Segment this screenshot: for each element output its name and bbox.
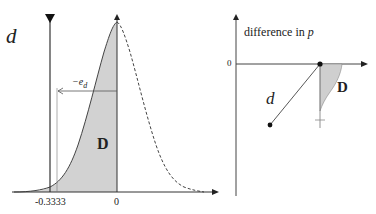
right-d-segment — [270, 64, 320, 125]
left-d-label: d — [6, 26, 17, 47]
right-region-d-label: D — [337, 80, 348, 95]
right-d-endpoint-dot — [268, 123, 273, 128]
d-marker-triangle-icon — [45, 14, 55, 23]
shaded-region-d — [30, 22, 117, 192]
density-curve-dashed — [117, 22, 204, 192]
left-x-axis-arrow-icon — [212, 189, 219, 195]
elasticity-label-text: −e — [72, 76, 83, 87]
right-y-axis-label-var: p — [308, 25, 314, 39]
right-d-label: d — [266, 90, 275, 107]
left-zero-axis-arrow-icon — [114, 14, 120, 20]
right-y-axis-label: difference in p — [244, 26, 314, 38]
x-tick-neg: -0.3333 — [35, 197, 66, 207]
right-x-axis-arrow-icon — [361, 61, 368, 67]
elasticity-label-subscript: d — [83, 81, 87, 90]
diagram-canvas — [0, 0, 376, 214]
x-tick-zero: 0 — [114, 197, 119, 207]
right-y-axis-arrow-icon — [233, 14, 239, 20]
right-y-tick-zero: 0 — [227, 59, 232, 68]
elasticity-label: −ed — [72, 77, 87, 90]
left-region-d-label: D — [97, 136, 109, 152]
right-y-axis-label-text: difference in — [244, 25, 308, 39]
right-origin-dot — [317, 61, 322, 66]
